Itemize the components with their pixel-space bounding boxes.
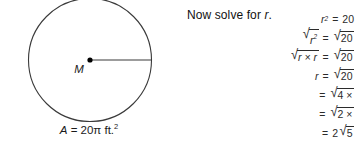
area-exponent: 2	[114, 122, 118, 131]
rhs-value: 20	[340, 31, 354, 45]
equals-sign: =	[315, 108, 329, 120]
radical-expression: √ r × r	[291, 49, 319, 64]
area-label: A = 20π ft.2	[0, 122, 178, 136]
equation-rhs: 2 √ 5	[332, 125, 354, 140]
equation-step: = √ 4 ×	[178, 85, 356, 104]
radical-expression: √ 20	[334, 30, 354, 45]
radical-expression: √ 20	[334, 49, 354, 64]
equation-lhs: r2	[321, 13, 328, 25]
radicand: r × r	[297, 50, 318, 64]
equals-sign: =	[319, 51, 333, 63]
equals-sign: =	[315, 89, 329, 101]
rhs-value: 5	[346, 126, 354, 140]
radical-sign-icon: √	[291, 48, 298, 64]
rhs-value: 4 ×	[337, 88, 354, 102]
rhs-value: 20	[342, 13, 354, 25]
equation-rhs: √ 20	[333, 30, 354, 45]
radical-sign-icon: √	[340, 124, 347, 140]
lhs-exponent: 2	[313, 33, 317, 40]
equation-step: = √ 2 ×	[178, 104, 356, 123]
rhs-coefficient: 2	[332, 127, 338, 139]
equation-step: √ r × r = √ 20	[178, 47, 356, 66]
equation-rhs: √ 4 ×	[329, 87, 354, 102]
equation-lhs: √ r2	[302, 28, 319, 47]
center-point-label: M	[74, 63, 84, 75]
area-unit: ft.	[101, 124, 114, 136]
radical-sign-icon: √	[334, 29, 341, 45]
equals-sign: =	[318, 127, 332, 139]
radicand: r2	[309, 29, 319, 47]
radical-expression: √ 5	[340, 125, 354, 140]
radical-sign-icon: √	[330, 86, 337, 102]
area-equals: =	[67, 124, 80, 136]
equation-step: r2 = 20	[178, 9, 356, 28]
radical-expression: √ 4 ×	[330, 87, 354, 102]
worksheet-page: M A = 20π ft.2 Now solve for r. r2 = 20	[0, 0, 356, 152]
circle-diagram: M	[0, 0, 178, 122]
equation-rhs: 20	[342, 13, 354, 25]
radical-sign-icon: √	[330, 105, 337, 121]
rhs-value: 20	[340, 50, 354, 64]
equation-step: √ r2 = √ 20	[178, 28, 356, 47]
rhs-value: 20	[340, 69, 354, 83]
equation-list: r2 = 20 √ r2 = √	[178, 9, 356, 142]
center-point-dot	[87, 57, 92, 62]
rhs-value: 2 ×	[337, 107, 354, 121]
equation-rhs: √ 2 ×	[329, 106, 354, 121]
equation-lhs: √ r × r	[290, 49, 319, 64]
radical-expression: √ r2	[303, 28, 319, 47]
radical-sign-icon: √	[334, 48, 341, 64]
radical-expression: √ 2 ×	[330, 106, 354, 121]
radical-sign-icon: √	[303, 28, 310, 48]
radical-sign-icon: √	[334, 67, 341, 83]
solution-panel: Now solve for r. r2 = 20 √ r2	[178, 0, 356, 152]
equals-sign: =	[319, 32, 333, 44]
equation-rhs: √ 20	[333, 49, 354, 64]
equation-step: = 2 √ 5	[178, 123, 356, 142]
equals-sign: =	[328, 13, 342, 25]
radical-expression: √ 20	[334, 68, 354, 83]
equation-step: r = √ 20	[178, 66, 356, 85]
equals-sign: =	[319, 70, 333, 82]
area-value: 20	[81, 124, 94, 136]
equation-rhs: √ 20	[333, 68, 354, 83]
circle-figure-panel: M A = 20π ft.2	[0, 0, 178, 152]
